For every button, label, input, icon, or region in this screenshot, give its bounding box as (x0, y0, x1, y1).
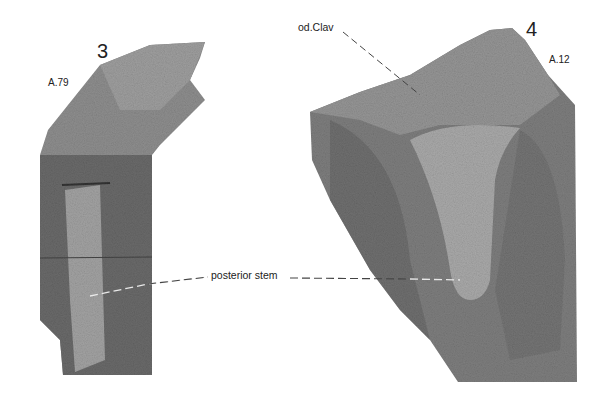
specimen-id-a79: A.79 (48, 77, 69, 88)
fossil-figure-plate: 3 A.79 4 A.12 od.Clav posterior stem (0, 0, 602, 399)
od-clav-annotation: od.Clav (298, 21, 334, 33)
posterior-stem-leader-left (148, 277, 208, 284)
specimen-illustrations (0, 0, 602, 399)
posterior-stem-annotation: posterior stem (211, 269, 278, 281)
figure-number-3: 3 (97, 40, 108, 63)
figure-number-4: 4 (526, 18, 537, 41)
specimen-4-slab (310, 28, 577, 382)
specimen-id-a12: A.12 (549, 54, 570, 65)
specimen-3-slab (40, 42, 205, 375)
